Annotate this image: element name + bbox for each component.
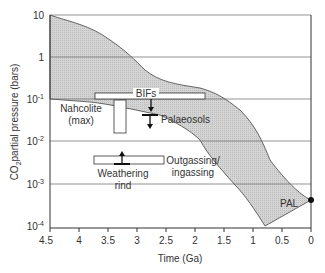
weathering-label-2: rind [115,180,132,191]
svg-text:10-2: 10-2 [27,135,44,147]
svg-text:10-1: 10-1 [27,93,44,105]
nahcolite-label-2: (max) [68,115,94,126]
y-axis-label: CO2partial pressure (bars) [9,64,22,181]
pal-point [308,197,314,203]
svg-text:4: 4 [76,235,82,246]
nahcolite-box [114,100,126,133]
svg-text:2: 2 [192,235,198,246]
svg-text:3.5: 3.5 [101,235,115,246]
bifs-label: BIFs [136,88,157,99]
svg-text:2.5: 2.5 [159,235,173,246]
palaeosols-label: Palaeosols [161,114,210,125]
svg-text:10-4: 10-4 [27,220,44,232]
svg-text:0: 0 [308,235,314,246]
svg-text:4.5: 4.5 [39,235,53,246]
svg-text:0.5: 0.5 [275,235,289,246]
x-axis-label: Time (Ga) [158,253,203,264]
weathering-label: Weathering [98,168,149,179]
y-tick-labels: 10 1 10-1 10-2 10-3 10-4 [27,10,45,232]
co2-chart: 4.5 4 3.5 3 2.5 2 1.5 1 0.5 0 Time (Ga) … [0,0,325,273]
weathering-rind-box [94,156,164,164]
svg-text:3: 3 [134,235,140,246]
nahcolite-label: Nahcolite [60,103,102,114]
svg-text:10-3: 10-3 [27,178,44,190]
svg-text:1.5: 1.5 [217,235,231,246]
outgassing-label: Outgassing/ [166,155,220,166]
palaeosols-marker [142,115,158,129]
outgassing-label-2: ingassing [172,167,214,178]
svg-text:10: 10 [33,10,45,21]
svg-text:1: 1 [250,235,256,246]
svg-text:1: 1 [38,52,44,63]
x-tick-labels: 4.5 4 3.5 3 2.5 2 1.5 1 0.5 0 [39,235,314,246]
pal-label: PAL [280,198,299,209]
